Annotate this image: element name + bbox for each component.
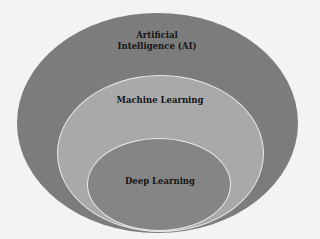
- machine-learning-label: Machine Learning: [95, 95, 225, 106]
- ai-label: Artificial Intelligence (AI): [107, 30, 207, 52]
- deep-learning-label: Deep Learning: [105, 176, 215, 187]
- ai-label-line1: Artificial: [107, 30, 207, 41]
- ai-label-line2: Intelligence (AI): [107, 41, 207, 52]
